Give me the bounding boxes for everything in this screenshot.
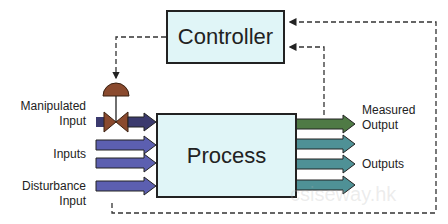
- manipulated-label-line2: Input: [21, 115, 86, 128]
- controller-label: Controller: [178, 24, 273, 50]
- disturbance-input-label: Disturbance Input: [22, 180, 86, 208]
- disturbance-label-line1: Disturbance: [22, 180, 86, 193]
- control-loop-diagram: Controller Process Manipulated Input Inp…: [0, 0, 448, 224]
- process-label: Process: [187, 143, 266, 169]
- manipulated-label-line1: Manipulated: [21, 100, 86, 113]
- watermark: csiseway.hk: [290, 183, 396, 206]
- measured-output-label: Measured Output: [362, 104, 415, 132]
- disturbance-label-line2: Input: [22, 195, 86, 208]
- process-block: Process: [156, 113, 297, 198]
- control-valve-icon: [96, 83, 129, 132]
- manipulated-input-label: Manipulated Input: [21, 100, 86, 128]
- inputs-label: Inputs: [53, 148, 86, 161]
- measured-label-line1: Measured: [362, 104, 415, 117]
- measured-label-line2: Output: [362, 119, 415, 132]
- controller-block: Controller: [166, 10, 285, 64]
- outputs-label: Outputs: [362, 158, 404, 171]
